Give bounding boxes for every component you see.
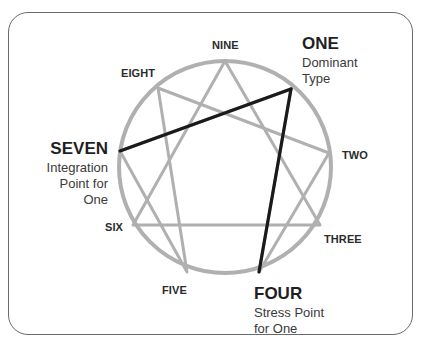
label-one-desc-1: Dominant: [302, 55, 358, 71]
label-six: SIX: [105, 222, 123, 233]
label-one-desc-2: Type: [302, 71, 330, 87]
label-three: THREE: [324, 234, 362, 245]
label-seven-desc-3: One: [83, 192, 108, 208]
label-seven: SEVEN: [50, 140, 108, 157]
label-eight: EIGHT: [121, 68, 155, 79]
label-two: TWO: [342, 150, 368, 161]
label-four: FOUR: [254, 285, 302, 302]
enneagram-circle: [119, 61, 331, 273]
label-one: ONE: [302, 35, 339, 52]
label-seven-desc-2: Point for: [60, 176, 108, 192]
label-nine: NINE: [212, 40, 239, 51]
label-five: FIVE: [162, 285, 187, 296]
label-seven-desc-1: Integration: [47, 160, 108, 176]
label-four-desc-2: for One: [254, 321, 297, 337]
label-four-desc-1: Stress Point: [254, 305, 324, 321]
